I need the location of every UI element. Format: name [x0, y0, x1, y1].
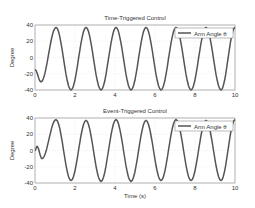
y-tick-label: 40 [26, 22, 33, 28]
x-tick-label: 4 [113, 185, 117, 191]
x-tick-label: 2 [73, 92, 77, 98]
y-tick-label: 20 [26, 38, 33, 44]
x-tick-label: 6 [153, 92, 157, 98]
x-tick-label: 8 [193, 185, 197, 191]
x-tick-label: 2 [73, 185, 77, 191]
x-tick-label: 6 [153, 185, 157, 191]
y-tick-label: 40 [26, 115, 33, 121]
y-tick-label: -40 [24, 180, 33, 186]
y-tick-label: 20 [26, 131, 33, 137]
y-axis-label: Degree [9, 140, 15, 160]
y-tick-label: -40 [24, 87, 33, 93]
y-tick-label: 0 [30, 148, 34, 154]
x-tick-label: 8 [193, 92, 197, 98]
x-tick-label: 10 [232, 92, 239, 98]
x-tick-label: 0 [33, 185, 37, 191]
x-tick-label: 10 [232, 185, 239, 191]
x-tick-label: 4 [113, 92, 117, 98]
chart-title: Time-Triggered Control [104, 15, 166, 21]
legend-label: Arm Angle θ [194, 31, 227, 37]
legend-label: Arm Angle θ [194, 124, 227, 130]
y-axis-label: Degree [9, 47, 15, 67]
x-axis-label: Time (s) [124, 193, 146, 199]
x-tick-label: 0 [33, 92, 37, 98]
y-tick-label: 0 [30, 55, 34, 61]
chart-title: Event-Triggered Control [103, 108, 167, 114]
figure: 024681040200-20-40Time-Triggered Control… [0, 0, 255, 208]
y-tick-label: -20 [24, 71, 33, 77]
y-tick-label: -20 [24, 164, 33, 170]
